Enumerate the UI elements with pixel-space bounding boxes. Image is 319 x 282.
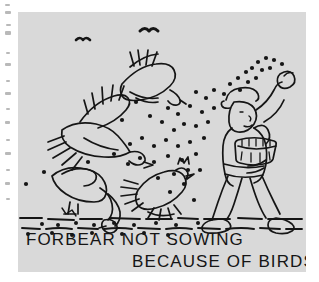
illustration-artwork — [18, 12, 306, 272]
scan-margin-artifacts — [0, 0, 18, 282]
seed-basket — [235, 138, 276, 165]
ground-bird-landing-icon — [121, 157, 194, 220]
illustration-plate: FORBEAR NOT SOWING BECAUSE OF BIRDS. — [18, 12, 306, 272]
distant-bird-icon — [76, 38, 90, 40]
ground-bird-pecking-icon — [52, 168, 120, 233]
ground-furrow-lines — [20, 218, 302, 229]
sower-figure — [202, 71, 295, 233]
distant-bird-icon — [140, 29, 158, 32]
flying-bird-icon — [121, 50, 187, 105]
scanned-page: FORBEAR NOT SOWING BECAUSE OF BIRDS. — [0, 0, 319, 282]
